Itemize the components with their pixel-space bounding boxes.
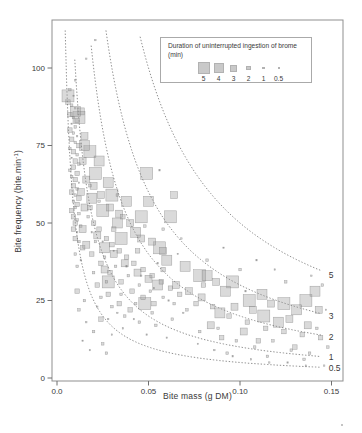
data-point: [74, 194, 77, 197]
y-tick-label: 25: [36, 296, 45, 305]
data-point: [77, 196, 82, 201]
data-point: [126, 266, 127, 267]
data-point: [112, 227, 117, 232]
data-point: [87, 193, 97, 203]
legend-item: 5: [196, 62, 211, 82]
data-point: [80, 260, 81, 261]
data-point: [172, 282, 179, 289]
data-point: [97, 192, 104, 199]
data-point: [278, 298, 290, 310]
data-point: [162, 228, 165, 231]
data-point: [71, 123, 72, 124]
data-point: [74, 253, 77, 256]
data-point: [95, 283, 100, 288]
data-point: [78, 182, 79, 183]
legend-size-swatch: [198, 62, 210, 74]
legend-item-label: 5: [202, 75, 206, 82]
data-point: [274, 269, 275, 270]
data-point: [257, 289, 267, 299]
data-point: [104, 236, 109, 241]
x-axis-label: Bite mass (g DM): [52, 391, 343, 401]
data-point: [120, 293, 123, 296]
data-point: [116, 194, 119, 197]
data-point: [117, 312, 118, 313]
data-point: [92, 271, 95, 274]
data-point: [155, 324, 158, 327]
data-point: [166, 337, 167, 338]
y-tick-label: 50: [36, 219, 45, 228]
data-point: [117, 249, 122, 254]
data-point: [62, 90, 74, 102]
data-point: [79, 226, 86, 233]
data-point: [153, 287, 154, 288]
data-point: [76, 136, 77, 137]
data-point: [106, 292, 111, 297]
data-point: [92, 330, 95, 333]
data-point: [102, 276, 114, 288]
data-point: [114, 265, 117, 268]
data-point: [213, 278, 220, 285]
data-point: [138, 235, 145, 242]
data-point: [235, 340, 238, 343]
data-point: [214, 349, 215, 350]
data-point: [78, 212, 81, 215]
data-point: [249, 306, 256, 313]
data-point: [199, 330, 202, 333]
data-point: [310, 286, 320, 296]
data-point: [292, 305, 302, 315]
data-point: [243, 295, 255, 307]
data-point: [293, 345, 298, 350]
data-point: [160, 247, 167, 254]
data-point: [151, 312, 154, 315]
data-point: [171, 318, 174, 321]
data-point: [121, 215, 126, 220]
data-point: [185, 288, 192, 295]
data-point: [90, 252, 95, 256]
data-point: [103, 256, 106, 259]
data-point: [124, 255, 129, 260]
data-point: [282, 329, 287, 334]
data-point: [71, 149, 76, 154]
data-point: [74, 206, 77, 209]
data-point: [177, 253, 178, 254]
data-point: [91, 232, 92, 233]
data-point: [74, 126, 77, 129]
data-point: [149, 238, 156, 245]
isoline-label: 0.5: [329, 363, 341, 373]
data-point: [76, 154, 79, 157]
data-point: [72, 200, 75, 203]
data-point: [89, 349, 90, 350]
data-point: [133, 318, 134, 319]
legend-title: Duration of uninterrupted ingestion of b…: [168, 42, 302, 59]
data-point: [141, 167, 153, 179]
data-point: [303, 358, 306, 361]
data-point: [135, 249, 140, 254]
data-point: [81, 204, 88, 211]
data-point: [311, 275, 312, 276]
data-point: [165, 211, 177, 223]
data-point: [111, 334, 112, 335]
data-point: [219, 335, 224, 340]
data-point: [73, 177, 78, 182]
data-point: [253, 346, 256, 349]
data-point: [113, 250, 114, 251]
isoline-label: 2: [329, 332, 334, 342]
data-point: [149, 290, 152, 293]
legend-swatch-box: [198, 62, 210, 74]
data-point: [117, 301, 122, 306]
data-point: [94, 156, 104, 166]
data-point: [273, 317, 283, 327]
data-point: [99, 317, 104, 322]
legend-swatch-box: [246, 62, 251, 74]
data-point: [112, 218, 122, 228]
data-point: [217, 327, 220, 330]
data-point: [220, 286, 230, 296]
data-point: [285, 281, 288, 284]
y-axis-label: Bite frequency (bite.min-1): [13, 136, 24, 266]
isoline-label: 1: [329, 352, 334, 362]
data-point: [82, 340, 83, 341]
data-point: [69, 169, 72, 172]
data-point: [130, 289, 135, 294]
data-point: [128, 308, 132, 313]
data-point: [105, 352, 108, 355]
